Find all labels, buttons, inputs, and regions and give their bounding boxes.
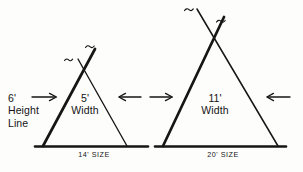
large-tent-width-value: 11' — [201, 92, 228, 104]
height-line-word-2: Line — [8, 117, 39, 129]
small-tent-size-caption: 14' SIZE — [78, 151, 110, 159]
large-tent-width-label-group: 11' Width — [201, 92, 228, 117]
large-teepee-tip-tuft-right — [217, 20, 226, 22]
large-tent-width-word: Width — [201, 104, 228, 116]
large-tent-left-arrow — [150, 93, 172, 100]
diagram-canvas: 6' Height Line 5' Width 11' Width 14' SI… — [0, 0, 303, 172]
small-tent-width-label-group: 5' Width — [71, 92, 98, 117]
small-tent-right-arrow — [119, 93, 141, 100]
large-teepee-right-pole — [197, 9, 278, 146]
small-tent-width-word: Width — [71, 104, 98, 116]
large-teepee-tip-tuft-left — [185, 9, 194, 11]
large-teepee-left-pole — [163, 17, 224, 146]
teepee-diagram-svg — [0, 0, 303, 172]
large-tent-size-caption: 20' SIZE — [207, 151, 239, 159]
large-tent-right-arrow — [267, 93, 290, 100]
height-line-word-1: Height — [8, 104, 39, 116]
height-line-label-group: 6' Height Line — [8, 92, 39, 129]
height-line-value: 6' — [8, 92, 39, 104]
small-tent-width-value: 5' — [71, 92, 98, 104]
small-teepee-tip-tuft-right — [86, 46, 95, 48]
small-teepee-tip-tuft-left — [65, 59, 73, 61]
large-teepee-shape — [163, 9, 278, 146]
